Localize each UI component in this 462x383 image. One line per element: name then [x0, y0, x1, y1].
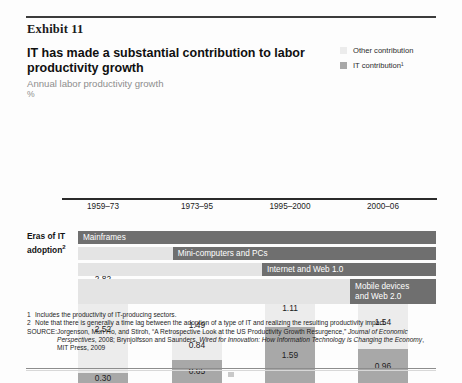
source-body: Jorgenson, Mun Ho, and Stiroh, “A Retros…	[57, 328, 437, 352]
top-divider	[26, 16, 436, 18]
source-line: SOURCE: Jorgenson, Mun Ho, and Stiroh, “…	[27, 328, 437, 352]
legend-label-other: Other contribution	[353, 46, 413, 55]
bar-value-it-1: 0.30	[95, 374, 111, 382]
bar-segment-it-4: 0.96	[358, 349, 408, 383]
eras-label-line1: Eras of IT	[27, 231, 65, 241]
legend-swatch-it-icon	[340, 62, 347, 69]
era-inactive-mobile	[78, 279, 350, 304]
era-row-minicomputers: Mini-computers and PCs	[78, 247, 436, 260]
bar-segment-it-2: 0.65	[172, 360, 222, 383]
era-label-mainframes: Mainframes	[83, 233, 126, 242]
era-label-internet: Internet and Web 1.0	[267, 265, 343, 274]
footnote-2-number: 2	[27, 319, 35, 327]
bar-segment-it-1: 0.30	[78, 373, 128, 383]
eras-label-superscript: 2	[62, 244, 65, 250]
footnote-2: 2 Note that there is generally a time la…	[27, 319, 437, 327]
footnote-1: 1 Includes the productivity of IT-produc…	[27, 311, 437, 319]
era-active-internet: Internet and Web 1.0	[262, 263, 436, 276]
legend-item-it: IT contribution¹	[340, 59, 413, 71]
era-active-mainframes: Mainframes	[78, 231, 436, 244]
bar-value-it-3: 1.59	[282, 351, 298, 359]
era-label-mobile-line2: and Web 2.0	[355, 292, 401, 301]
chart-subtitle: Annual labor productivity growth	[27, 78, 164, 89]
bottom-divider	[26, 368, 436, 369]
x-axis-label-1: 1959–73	[65, 202, 141, 211]
page-title: IT has made a substantial contribution t…	[27, 46, 327, 75]
chart-units-label: %	[27, 89, 35, 99]
era-inactive-minicomputers	[78, 247, 173, 260]
era-label-minicomputers: Mini-computers and PCs	[178, 249, 268, 258]
source-part2: , 2008; Brynjolfsson and Saunders,	[95, 336, 199, 343]
eras-section-label: Eras of IT adoption2	[27, 231, 79, 255]
legend-label-it: IT contribution¹	[353, 61, 404, 70]
chart-legend: Other contribution IT contribution¹	[340, 44, 413, 74]
x-axis-line	[62, 198, 437, 200]
source-italic2: Wired for Innovation: How Information Te…	[199, 336, 422, 343]
source-part1: Jorgenson, Mun Ho, and Stiroh, “A Retros…	[57, 328, 348, 335]
exhibit-page: Exhibit 11 IT has made a substantial con…	[0, 0, 462, 383]
eras-label-line2: adoption	[27, 244, 62, 254]
era-label-mobile-line1: Mobile devices	[355, 282, 409, 291]
legend-swatch-other-icon	[340, 47, 347, 54]
footnote-1-number: 1	[27, 311, 35, 319]
era-row-mobile: Mobile devices and Web 2.0	[78, 279, 436, 304]
footnotes: 1 Includes the productivity of IT-produc…	[27, 311, 437, 352]
era-row-internet: Internet and Web 1.0	[78, 263, 436, 276]
x-axis-label-2: 1973–95	[159, 202, 235, 211]
era-row-mainframes: Mainframes	[78, 231, 436, 244]
x-axis-label-4: 2000–06	[345, 202, 421, 211]
footnote-2-text: Note that there is generally a time lag …	[35, 319, 437, 327]
x-axis-label-3: 1995–2000	[252, 202, 328, 211]
era-inactive-internet	[78, 263, 262, 276]
era-active-mobile: Mobile devices and Web 2.0	[350, 279, 436, 304]
bottom-divider-secondary	[26, 370, 436, 371]
footnote-1-text: Includes the productivity of IT-producin…	[35, 311, 437, 319]
source-label: SOURCE:	[27, 328, 57, 352]
exhibit-label: Exhibit 11	[27, 22, 84, 37]
era-active-minicomputers: Mini-computers and PCs	[173, 247, 436, 260]
page-mark	[228, 372, 234, 377]
legend-item-other: Other contribution	[340, 44, 413, 56]
